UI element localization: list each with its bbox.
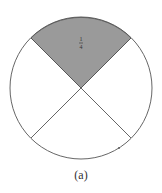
fraction-numerator: 1	[80, 36, 83, 42]
fraction-circle-diagram: 1 4	[0, 0, 162, 193]
fraction-denominator: 4	[80, 44, 83, 50]
small-dot-mark	[118, 147, 120, 149]
figure-caption: (a)	[0, 168, 162, 183]
